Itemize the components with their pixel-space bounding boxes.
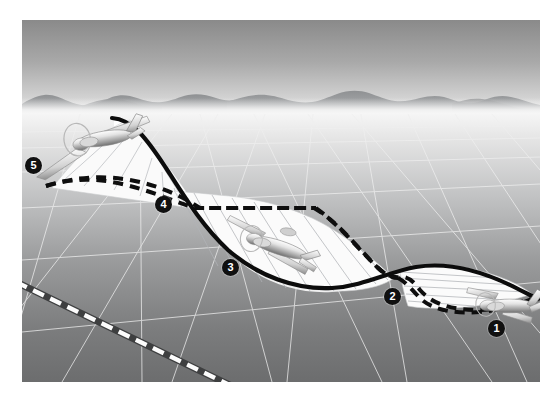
marker-3[interactable]: 3 [222,259,239,276]
illustration-frame: 1 2 3 4 5 [0,0,560,402]
marker-5[interactable]: 5 [25,157,42,174]
marker-2[interactable]: 2 [384,288,401,305]
illustration-scene: 1 2 3 4 5 [22,20,540,382]
scene-canvas [22,20,540,382]
horizon-haze [22,98,540,115]
marker-1[interactable]: 1 [488,320,505,337]
marker-4[interactable]: 4 [155,196,172,213]
